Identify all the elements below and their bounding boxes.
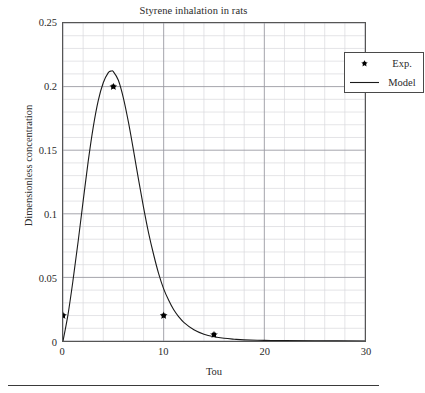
- x-tick-label: 0: [59, 346, 64, 357]
- chart-legend: Exp. Model: [344, 52, 424, 93]
- x-tick-label: 20: [259, 346, 270, 357]
- line-sample-icon: [348, 73, 381, 92]
- y-tick-label: 0.15: [39, 145, 57, 156]
- y-tick-label: 0.1: [44, 209, 57, 220]
- legend-label-model: Model: [381, 73, 423, 92]
- experimental-points: [63, 23, 365, 341]
- legend-entry-model: Model: [345, 73, 425, 92]
- chart-title: Styrene inhalation in rats: [0, 5, 387, 16]
- y-tick-label: 0.25: [39, 17, 57, 28]
- x-axis-label: Tou: [62, 366, 366, 377]
- legend-entry-exp: Exp.: [345, 54, 425, 73]
- y-tick-label: 0.05: [39, 273, 57, 284]
- star-marker-icon: [348, 54, 381, 73]
- plot-area: Exp. Model: [62, 22, 366, 342]
- x-tick-label: 30: [361, 346, 372, 357]
- bottom-divider: [8, 385, 379, 386]
- y-tick-label: 0.2: [44, 81, 57, 92]
- x-tick-label: 10: [158, 346, 169, 357]
- y-tick-label: 0: [52, 337, 57, 348]
- y-axis-tick-labels: 00.050.10.150.20.25: [0, 22, 57, 342]
- legend-label-exp: Exp.: [381, 54, 423, 73]
- x-axis-tick-labels: 0102030: [62, 346, 366, 362]
